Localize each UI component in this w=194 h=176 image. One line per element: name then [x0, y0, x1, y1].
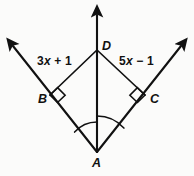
geometry-figure: D B C A 3x + 1 5x − 1 [0, 0, 194, 176]
left-expr-coefficient: 3 [37, 54, 44, 68]
segment-dc-measure-label: 5x − 1 [119, 55, 154, 67]
right-expr-variable: x [126, 54, 133, 68]
left-expr-constant: 1 [65, 54, 72, 68]
right-expr-constant: 1 [147, 54, 154, 68]
point-label-d: D [102, 40, 111, 53]
right-expr-operator: − [136, 54, 143, 68]
left-expr-variable: x [44, 54, 51, 68]
point-label-a: A [92, 157, 101, 170]
left-expr-operator: + [54, 54, 61, 68]
segment-db-measure-label: 3x + 1 [37, 55, 72, 67]
point-label-b: B [38, 93, 47, 106]
figure-canvas [0, 0, 194, 176]
right-expr-coefficient: 5 [119, 54, 126, 68]
point-label-c: C [150, 93, 159, 106]
